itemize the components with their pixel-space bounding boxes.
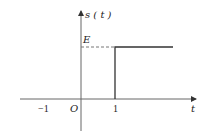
step-signal bbox=[115, 47, 173, 99]
step-function-diagram: s ( t ) E −1 O 1 t bbox=[0, 0, 206, 138]
x-axis-label: t bbox=[191, 103, 196, 114]
origin-label: O bbox=[70, 103, 78, 114]
tick-label-minus-one: −1 bbox=[38, 103, 49, 114]
level-label: E bbox=[82, 34, 91, 45]
tick-label-one: 1 bbox=[113, 103, 118, 114]
y-axis-label: s ( t ) bbox=[85, 9, 112, 20]
